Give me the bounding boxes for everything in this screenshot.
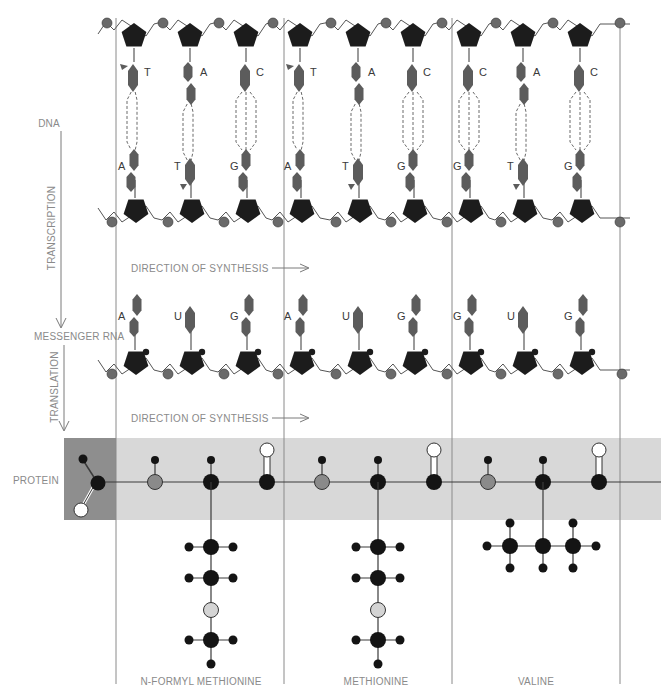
dna-bottom-sugar: [513, 200, 538, 224]
dna-bottom-phosphate: [273, 217, 283, 227]
dna-bottom-sugar: [570, 200, 595, 224]
hydrogen-atom: [185, 543, 194, 552]
dna-bottom-sugar: [236, 200, 261, 224]
mrna-base-ring: [468, 294, 477, 316]
mrna-ribose-sugar: [236, 352, 261, 376]
hydrogen-atom: [229, 543, 238, 552]
mrna-phosphate: [496, 369, 506, 379]
amide-hydrogen-atom: [318, 456, 326, 464]
hydrogen-bond: [293, 92, 297, 150]
dna-top-base-letter: C: [423, 66, 431, 78]
dna-bottom-base-letter: G: [397, 160, 406, 172]
dna-top-base-letter: A: [533, 66, 541, 78]
mrna-phosphate: [219, 369, 229, 379]
dna-top-base-ring: [128, 64, 138, 92]
hydrogen-atom: [569, 519, 578, 528]
dna-bottom-base-ring: [353, 158, 363, 186]
mrna-ribose-sugar: [290, 352, 315, 376]
dna-bottom-base-ring: [293, 172, 302, 192]
hydrogen-atom: [396, 543, 405, 552]
hydrogen-atom: [483, 542, 492, 551]
dna-bottom-phosphate: [615, 217, 625, 227]
hydrogen-bond: [250, 92, 256, 150]
carbonyl-carbon-atom: [591, 474, 607, 490]
dna-top-base-ring: [355, 83, 364, 105]
dna-top-sugar: [511, 23, 536, 47]
protein-label: PROTEIN: [13, 475, 59, 486]
carbonyl-double-bond: [264, 455, 270, 477]
dna-bottom-phosphate: [331, 217, 341, 227]
hydrogen-atom: [592, 542, 601, 551]
mrna-phosphate: [107, 369, 117, 379]
amino-acid-label-1: METHIONINE: [344, 676, 409, 687]
mrna-base-ring: [576, 317, 585, 337]
hydrogen-bond: [359, 104, 361, 160]
ribose-hydroxyl-icon: [589, 349, 595, 355]
mrna-base-ring: [518, 306, 528, 334]
dna-bottom-base-ring: [239, 172, 248, 192]
hydrogen-atom: [185, 636, 194, 645]
hydrogen-bond: [524, 104, 526, 160]
dna-top-base-ring: [407, 64, 417, 92]
alpha-hydrogen-atom: [207, 456, 215, 464]
mrna-ribose-sugar: [124, 352, 149, 376]
mrna-base-ring: [299, 294, 308, 316]
amino-acid-labels: N-FORMYL METHIONINE METHIONINE VALINE: [140, 676, 554, 687]
translation-label: TRANSLATION: [49, 351, 60, 422]
mrna-ribose-sugar: [513, 352, 538, 376]
amino-acid-label-0: N-FORMYL METHIONINE: [140, 676, 261, 687]
direction-of-synthesis-label-dna: DIRECTION OF SYNTHESIS: [131, 263, 269, 274]
dna-top-base-letter: T: [144, 66, 151, 78]
dna-top-phosphate: [491, 18, 501, 28]
amide-hydrogen-atom: [151, 456, 159, 464]
side-labels: DNA TRANSCRIPTION MESSENGER RNA TRANSLAT…: [13, 118, 125, 486]
dna-top-sugar: [346, 23, 371, 47]
hydrogen-atom: [396, 574, 405, 583]
dna-top-base-ring: [574, 64, 584, 92]
dna-top-sugar: [401, 23, 426, 47]
hydrogen-bond: [570, 92, 576, 150]
hydrogen-bond: [135, 92, 137, 150]
dna-bottom-sugar: [403, 200, 428, 224]
mrna-phosphate: [163, 369, 173, 379]
hydrogen-bond: [127, 92, 131, 150]
carbon-atom: [370, 632, 386, 648]
dna-top-base-ring: [517, 62, 526, 82]
dna-bottom-base-ring: [409, 149, 418, 171]
hydrogen-atom: [506, 564, 515, 573]
sulfur-atom: [371, 603, 386, 618]
mrna-base-letter: G: [397, 310, 406, 322]
dna-bottom-base-ring: [185, 158, 195, 186]
hydrogen-atom: [506, 519, 515, 528]
dna-top-phosphate: [158, 18, 168, 28]
direction-of-synthesis-label-rna: DIRECTION OF SYNTHESIS: [131, 413, 269, 424]
hydrogen-bond: [417, 92, 423, 150]
alpha-hydrogen-atom: [374, 456, 382, 464]
mrna-base-letter: G: [230, 310, 239, 322]
hydrogen-atom: [539, 564, 548, 573]
dna-bottom-base-letter: G: [230, 160, 239, 172]
dna-bottom-base-letter: T: [342, 160, 349, 172]
mrna-phosphate: [442, 369, 452, 379]
mrna-base-ring: [296, 317, 305, 337]
amino-acid-label-2: VALINE: [518, 676, 554, 687]
sulfur-atom: [204, 603, 219, 618]
messenger-rna-strand: AUGAUGGUG: [98, 294, 630, 379]
dna-top-sugar: [568, 23, 593, 47]
dna-bottom-base-ring: [518, 158, 528, 186]
mrna-ribose-sugar: [348, 352, 373, 376]
hydrogen-atom: [229, 574, 238, 583]
mrna-ribose-sugar: [403, 352, 428, 376]
hydrogen-atom: [352, 574, 361, 583]
dna-bottom-sugar: [124, 200, 149, 224]
hydrogen-atom: [374, 660, 383, 669]
mrna-base-ring: [242, 317, 251, 337]
mrna-phosphate: [386, 369, 396, 379]
mrna-phosphate: [617, 369, 627, 379]
mrna-base-letter: A: [284, 310, 292, 322]
thymine-methyl-icon: [348, 184, 355, 190]
mrna-base-letter: G: [564, 310, 573, 322]
hydrogen-bond: [459, 92, 465, 150]
dna-bottom-base-ring: [462, 172, 471, 192]
dna-top-phosphate: [548, 18, 558, 28]
